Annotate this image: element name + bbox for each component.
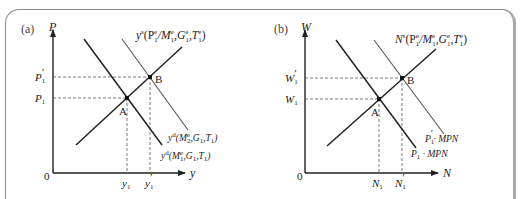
demand-label-2-a: yd(Me2,G1,T1) [167, 131, 218, 145]
origin-label-b: 0 [297, 170, 303, 182]
y-axis-label-b: W [301, 20, 312, 34]
panel-a-tag: (a) [21, 22, 34, 36]
labor-supply-curve-b [327, 49, 436, 146]
y-tick-w1-prime: W1′ [285, 67, 298, 86]
point-a-label-b: A [371, 106, 379, 118]
point-b-label-a: B [155, 73, 162, 85]
labor-demand-label-2-b: P1′· MPN [424, 129, 459, 146]
panel-b-tag: (b) [274, 22, 288, 36]
origin-label-a: 0 [44, 170, 50, 182]
panel-a: (a) P y 0 P1′ P1 y1 y1′ A B ys(Pe1/Me1,G… [21, 20, 218, 191]
y-tick-p1-prime: P1′ [34, 66, 46, 85]
x-tick-n1: N1 [371, 177, 383, 191]
point-a-marker-b [377, 97, 381, 101]
economics-diagram: (a) P y 0 P1′ P1 y1 y1′ A B ys(Pe1/Me1,G… [0, 0, 528, 199]
labor-demand-curve-2-b [374, 40, 444, 134]
x-tick-y1-prime: y1′ [144, 171, 154, 191]
point-a-marker-a [125, 96, 129, 100]
demand-label-1-a: yd(Me1,G1,T1) [160, 149, 211, 163]
y-axis-label-a: P [48, 20, 57, 34]
point-b-marker-b [400, 76, 404, 80]
y-tick-w1: W1 [285, 93, 298, 107]
point-b-marker-a [148, 75, 152, 79]
labor-supply-label-b: Ns(Pe1/Me1,Ge1,Te1) [394, 32, 467, 48]
y-tick-p1: P1 [34, 92, 46, 106]
x-tick-y1: y1 [121, 177, 131, 191]
labor-demand-curve-1-b [336, 40, 416, 148]
point-a-label-a: A [119, 105, 127, 117]
x-axis-label-b: N [442, 166, 452, 180]
point-b-label-b: B [407, 74, 414, 86]
panel-b: (b) W N 0 W1′ W1 N1 N1′ A B Ns(Pe1/Me1,G… [274, 20, 467, 191]
guide-lines-a [53, 77, 150, 173]
labor-demand-label-1-b: P1 · MPN [410, 149, 448, 161]
x-axis-label-a: y [189, 166, 196, 180]
x-tick-n1-prime: N1′ [394, 171, 406, 191]
supply-label-a: ys(Pe1/Me1,Ge1,Te1) [135, 28, 206, 44]
